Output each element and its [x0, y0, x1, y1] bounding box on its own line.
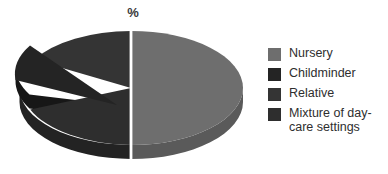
legend-swatch-relative	[268, 88, 281, 101]
legend-label-relative: Relative	[289, 86, 334, 100]
legend-label-mixture: Mixture of day- care settings	[289, 106, 372, 134]
legend-swatch-nursery	[268, 48, 281, 61]
center-separator	[130, 31, 133, 159]
legend-label-nursery: Nursery	[289, 46, 333, 60]
legend-item-childminder: Childminder	[268, 66, 388, 81]
chart-legend: Nursery Childminder Relative Mixture of …	[268, 46, 388, 139]
legend-item-relative: Relative	[268, 86, 388, 101]
legend-item-mixture: Mixture of day- care settings	[268, 106, 388, 134]
legend-label-childminder: Childminder	[289, 66, 356, 80]
legend-swatch-mixture	[268, 108, 281, 121]
legend-swatch-childminder	[268, 68, 281, 81]
legend-item-nursery: Nursery	[268, 46, 388, 61]
pie-chart-figure: % Nursery C	[0, 0, 388, 174]
